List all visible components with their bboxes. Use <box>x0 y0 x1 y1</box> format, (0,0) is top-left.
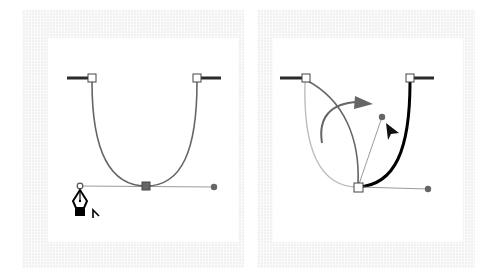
left-smooth-path <box>92 82 197 186</box>
bezier-diagram <box>0 0 487 280</box>
curved-arrow-icon <box>321 96 373 143</box>
right-original-path <box>305 82 358 187</box>
left-direction-point-right[interactable] <box>211 184 217 190</box>
right-anchor-top-right[interactable] <box>406 74 414 82</box>
right-direction-point[interactable] <box>425 186 431 192</box>
right-direction-line <box>358 187 428 189</box>
right-illustration <box>280 74 434 192</box>
arrow-cursor-icon <box>386 123 399 140</box>
right-dragged-direction-point[interactable] <box>379 114 385 120</box>
pen-convert-icon <box>73 190 99 218</box>
right-anchor-bottom-corner[interactable] <box>354 183 363 192</box>
left-direction-point-left[interactable] <box>77 183 83 189</box>
left-illustration <box>67 74 221 218</box>
left-anchor-top-right[interactable] <box>193 74 201 82</box>
right-new-left-segment <box>306 80 358 184</box>
right-dragged-direction-line <box>358 117 382 187</box>
left-anchor-top-left[interactable] <box>88 74 96 82</box>
left-anchor-bottom-selected[interactable] <box>142 182 150 190</box>
right-anchor-top-left[interactable] <box>302 74 310 82</box>
right-active-segment <box>358 82 410 187</box>
